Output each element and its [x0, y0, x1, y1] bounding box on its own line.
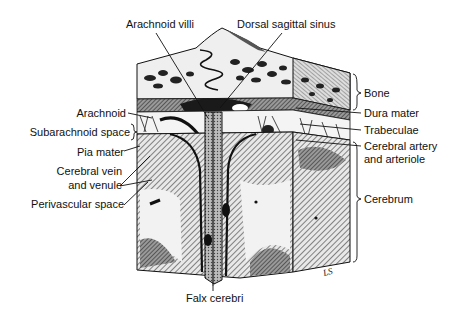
label-arachnoid-villi: Arachnoid villi	[126, 18, 194, 30]
label-arachnoid: Arachnoid	[76, 107, 126, 119]
cerebrum-block	[137, 112, 350, 286]
label-subarachnoid-space: Subarachnoid space	[30, 126, 130, 138]
label-bone: Bone	[364, 87, 390, 99]
label-cerebral-vein: Cerebral vein	[57, 165, 122, 177]
label-dura-mater: Dura mater	[364, 107, 419, 119]
label-trabeculae: Trabeculae	[364, 124, 419, 136]
label-cerebral-vein-line2: and venule	[68, 179, 122, 191]
bone-layer	[137, 28, 350, 110]
label-cerebrum: Cerebrum	[364, 193, 413, 205]
label-perivascular-space: Perivascular space	[31, 198, 124, 210]
label-cerebral-artery-line2: and arteriole	[364, 153, 425, 165]
artist-initials: LS	[321, 266, 334, 279]
label-pia-mater: Pia mater	[77, 146, 124, 158]
label-cerebral-artery: Cerebral artery	[364, 140, 437, 152]
label-falx-cerebri: Falx cerebri	[186, 292, 243, 304]
label-dorsal-sagittal-sinus: Dorsal sagittal sinus	[237, 18, 335, 30]
